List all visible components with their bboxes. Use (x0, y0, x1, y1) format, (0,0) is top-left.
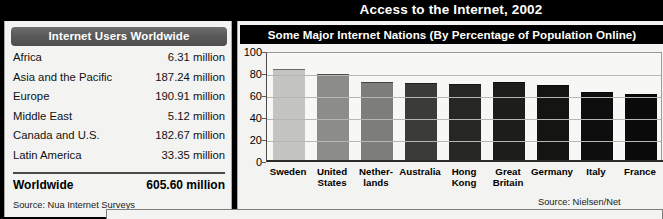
total-label: Worldwide (13, 178, 73, 192)
x-axis-label: Hong Kong (442, 166, 486, 189)
y-axis-tick-label: 40 (250, 112, 262, 124)
bar-slot (311, 52, 355, 162)
x-axis-label: Nether- lands (354, 166, 398, 189)
x-axis-label: France (618, 166, 662, 189)
bar (625, 94, 657, 162)
table-row: Canada and U.S.182.67 million (13, 129, 225, 149)
bar (493, 82, 525, 162)
table-row-total: Worldwide 605.60 million (13, 178, 225, 192)
bottom-panel-edge (106, 209, 663, 219)
table-row: Middle East5.12 million (13, 110, 225, 130)
x-axis-label: Germany (530, 166, 574, 189)
region-label: Africa (13, 51, 42, 63)
gridline (267, 97, 661, 98)
internet-users-panel: Internet Users Worldwide Africa6.31 mill… (4, 21, 232, 217)
y-axis-tick-mark (262, 162, 266, 163)
x-axis-labels: SwedenUnited StatesNether- landsAustrali… (266, 166, 662, 189)
top-banner: Access to the Internet, 2002 (0, 0, 663, 20)
gridline (267, 119, 661, 120)
bar-slot (399, 52, 443, 162)
region-label: Asia and the Pacific (13, 71, 112, 83)
bar (405, 83, 437, 162)
y-axis-tick-label: 100 (244, 46, 262, 58)
internet-users-header: Internet Users Worldwide (11, 27, 227, 46)
bar-slot (619, 52, 663, 162)
region-value: 6.31 million (168, 51, 225, 63)
y-axis-tick-mark (262, 74, 266, 75)
bar-slot (487, 52, 531, 162)
region-value: 190.91 million (155, 90, 225, 102)
region-value: 187.24 million (155, 71, 225, 83)
region-label: Europe (13, 90, 49, 102)
bar-slot (355, 52, 399, 162)
bar (581, 92, 613, 162)
bar (273, 69, 305, 163)
region-value: 5.12 million (168, 110, 225, 122)
y-axis-tick-label: 20 (250, 134, 262, 146)
region-value: 33.35 million (162, 149, 225, 161)
y-axis-tick-label: 80 (250, 68, 262, 80)
internet-users-table: Africa6.31 millionAsia and the Pacific18… (13, 51, 225, 168)
y-axis-tick-mark (262, 52, 266, 53)
region-value: 182.67 million (155, 129, 225, 141)
plot-area (266, 52, 662, 162)
x-axis-label: United States (310, 166, 354, 189)
infographic-root: Access to the Internet, 2002 Internet Us… (0, 0, 663, 219)
y-axis-tick-mark (262, 140, 266, 141)
x-axis-label: Australia (398, 166, 442, 189)
table-row: Africa6.31 million (13, 51, 225, 71)
total-value: 605.60 million (146, 178, 225, 192)
internet-nations-panel: Some Major Internet Nations (By Percenta… (237, 21, 663, 217)
plot-area-wrapper: 100806040200 (266, 52, 662, 167)
x-axis-label: Italy (574, 166, 618, 189)
region-label: Middle East (13, 110, 72, 122)
table-divider (13, 172, 225, 174)
bar (361, 82, 393, 162)
x-axis-line (267, 160, 663, 162)
region-label: Latin America (13, 149, 81, 161)
bar-series (267, 52, 663, 162)
bar (317, 74, 349, 162)
chart-header: Some Major Internet Nations (By Percenta… (240, 25, 663, 44)
x-axis-label: Great Britain (486, 166, 530, 189)
y-axis-tick-label: 60 (250, 90, 262, 102)
right-source-note: Source: Nielsen/Net (538, 197, 621, 207)
bar-slot (267, 52, 311, 162)
gridline (267, 141, 661, 142)
region-label: Canada and U.S. (13, 129, 100, 141)
bar-slot (443, 52, 487, 162)
y-axis-tick-mark (262, 118, 266, 119)
table-row: Latin America33.35 million (13, 149, 225, 169)
y-axis-tick-mark (262, 96, 266, 97)
bar (449, 84, 481, 162)
table-row: Europe190.91 million (13, 90, 225, 110)
page-title: Access to the Internet, 2002 (239, 1, 663, 19)
table-row: Asia and the Pacific187.24 million (13, 71, 225, 91)
gridline (267, 75, 661, 76)
x-axis-label: Sweden (266, 166, 310, 189)
bar-slot (575, 52, 619, 162)
bar-slot (531, 52, 575, 162)
